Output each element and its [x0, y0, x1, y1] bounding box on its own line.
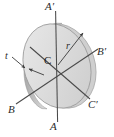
axis-label-b: B	[8, 104, 15, 115]
axis-label-a-prime: A′	[45, 1, 54, 12]
disk-axes-figure: A′ A B′ B C′ C r t	[0, 0, 114, 137]
axis-label-c-prime: C′	[88, 99, 98, 110]
radius-label: r	[66, 41, 70, 51]
axis-label-a: A	[50, 121, 57, 132]
thickness-label: t	[5, 51, 8, 61]
axis-label-b-prime: B′	[97, 46, 106, 57]
center-label: C	[44, 55, 51, 66]
figure-canvas	[0, 0, 114, 137]
